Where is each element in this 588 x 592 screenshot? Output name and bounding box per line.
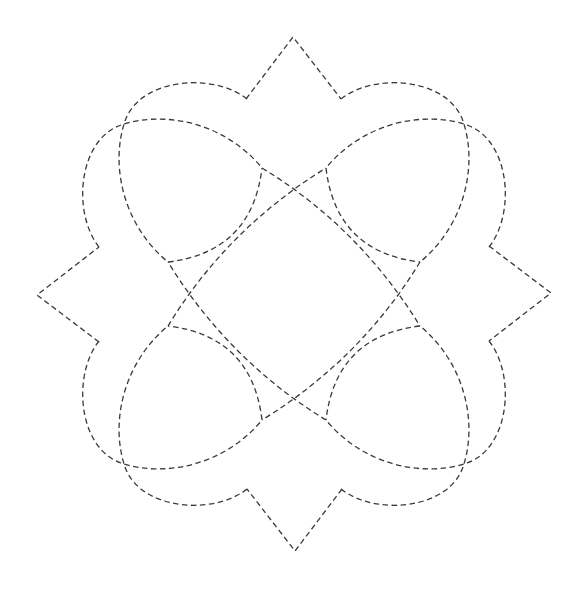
inner-arc-bl: [168, 326, 262, 420]
inner-arcs-group: [168, 168, 420, 420]
outer-arc-3: [119, 326, 247, 505]
inner-arc-br: [326, 326, 420, 420]
spikes-group: [37, 37, 551, 551]
long-arc-nw: [168, 168, 326, 326]
outer-arc-5: [119, 83, 247, 262]
outer-arc-4: [83, 119, 262, 247]
inner-arc-tl: [168, 168, 262, 262]
spike-left: [37, 247, 99, 342]
long-arcs-group: [168, 168, 420, 420]
long-arc-sw: [168, 262, 326, 420]
outer-arcs-group: [83, 83, 506, 506]
outer-arc-8: [326, 119, 505, 247]
outer-arc-1: [341, 83, 469, 262]
outer-arc-7: [341, 326, 469, 505]
spike-top: [246, 37, 341, 99]
inner-arc-tr: [326, 168, 420, 262]
star-flower-figure: [0, 0, 588, 592]
long-arc-se: [262, 262, 420, 420]
outer-arc-6: [83, 341, 262, 469]
spike-right: [489, 246, 551, 341]
spike-bottom: [247, 489, 342, 551]
long-arc-ne: [262, 168, 420, 326]
drawing-canvas: Dashed geometric star-flower figure: [0, 0, 588, 592]
outer-arc-2: [326, 341, 505, 469]
